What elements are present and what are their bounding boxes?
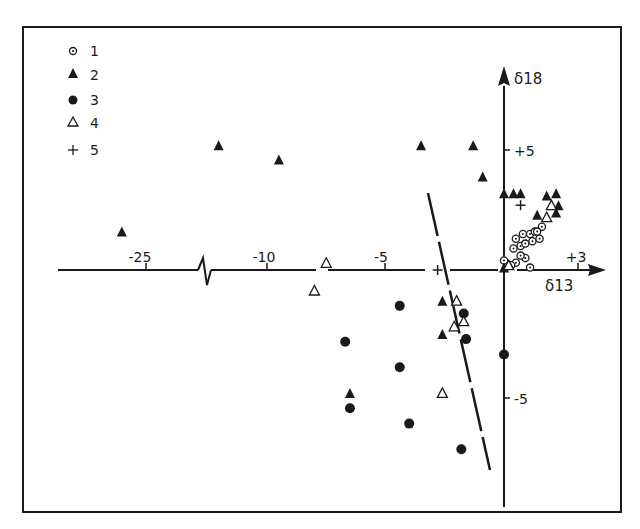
data-point-series-4: [309, 285, 319, 295]
data-point-series-1: [534, 228, 541, 235]
svg-text:3: 3: [90, 92, 99, 108]
data-point-series-5: [516, 200, 526, 210]
data-point-series-3: [395, 362, 405, 372]
data-point-series-2: [345, 388, 355, 398]
data-point-series-1: [522, 240, 529, 247]
data-point-series-4: [546, 200, 556, 210]
data-point-series-2: [468, 140, 478, 150]
data-point-series-2: [274, 155, 284, 165]
legend: 1 2 3 4 5: [68, 43, 99, 158]
svg-text:4: 4: [90, 115, 99, 131]
legend-item-3: 3: [69, 92, 99, 108]
data-point-series-1: [512, 235, 519, 242]
scatter-chart: -25 -10 -5 +3 δ13 +5 -5 δ18 1 2 3 4: [0, 0, 640, 529]
data-point-series-2: [478, 171, 488, 181]
data-point-series-2: [437, 296, 447, 306]
legend-item-2: 2: [68, 67, 99, 83]
data-point-series-3: [456, 444, 466, 454]
data-points: [117, 140, 564, 454]
x-tick-label: -25: [129, 249, 152, 265]
dividing-dashed-line: [428, 193, 490, 470]
data-point-series-4: [459, 316, 469, 326]
x-tick-label: -5: [374, 249, 388, 265]
data-point-series-2: [499, 188, 509, 198]
x-tick-label: +3: [566, 249, 587, 265]
data-point-series-3: [345, 403, 355, 413]
data-point-series-1: [526, 264, 533, 271]
data-point-series-3: [340, 337, 350, 347]
data-point-series-2: [542, 191, 552, 201]
data-point-series-3: [404, 419, 414, 429]
data-point-series-2: [437, 329, 447, 339]
y-tick-label: +5: [514, 143, 535, 159]
data-point-series-1: [517, 252, 524, 259]
data-point-series-3: [395, 301, 405, 311]
data-point-series-2: [214, 140, 224, 150]
data-point-series-1: [529, 238, 536, 245]
data-point-series-4: [542, 212, 552, 222]
data-point-series-3: [461, 334, 471, 344]
svg-text:1: 1: [90, 43, 99, 59]
legend-item-5: 5: [68, 142, 99, 158]
x-tick-label: -10: [253, 249, 276, 265]
data-point-series-2: [416, 140, 426, 150]
data-point-series-3: [499, 349, 509, 359]
data-point-series-1: [519, 230, 526, 237]
legend-item-4: 4: [68, 115, 99, 131]
svg-text:2: 2: [90, 67, 99, 83]
y-axis-arrow-icon: [498, 66, 510, 86]
data-point-series-5: [433, 265, 443, 275]
data-point-series-4: [321, 258, 331, 268]
legend-item-1: 1: [70, 43, 99, 59]
y-tick-label: -5: [514, 391, 528, 407]
data-point-series-2: [516, 188, 526, 198]
data-point-series-4: [437, 388, 447, 398]
svg-text:5: 5: [90, 142, 99, 158]
data-point-series-2: [117, 227, 127, 237]
data-point-series-1: [510, 245, 517, 252]
x-axis-label: δ13: [545, 277, 573, 295]
x-axis-arrow-icon: [588, 264, 606, 276]
y-axis-label: δ18: [514, 70, 542, 88]
data-point-series-2: [551, 188, 561, 198]
data-point-series-1: [536, 235, 543, 242]
data-point-series-2: [532, 210, 542, 220]
